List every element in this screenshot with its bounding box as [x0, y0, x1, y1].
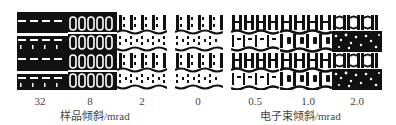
tick-label-2: 2 [139, 95, 145, 107]
tick-label-0: 0 [195, 95, 201, 107]
tick-label-1.0: 1.0 [301, 95, 315, 107]
lattice-image-sample-tilt-2 [117, 12, 167, 90]
tick-label-2.0: 2.0 [350, 95, 364, 107]
tick-label-0.5: 0.5 [248, 95, 262, 107]
lattice-image-beam-tilt-1.0 [280, 12, 332, 90]
lattice-image-sample-tilt-32 [17, 12, 68, 90]
tick-label-32: 32 [35, 95, 46, 107]
lattice-image-beam-tilt-0 [175, 12, 223, 90]
axis-label-beam-tilt: 电子束倾斜/mrad [260, 107, 341, 123]
lattice-image-beam-tilt-0.5 [231, 12, 280, 90]
tick-label-8: 8 [87, 95, 93, 107]
lattice-image-sample-tilt-8 [68, 12, 117, 90]
lattice-image-beam-tilt-2.0 [332, 12, 382, 90]
axis-label-sample-tilt: 样品倾斜/mrad [60, 107, 130, 123]
